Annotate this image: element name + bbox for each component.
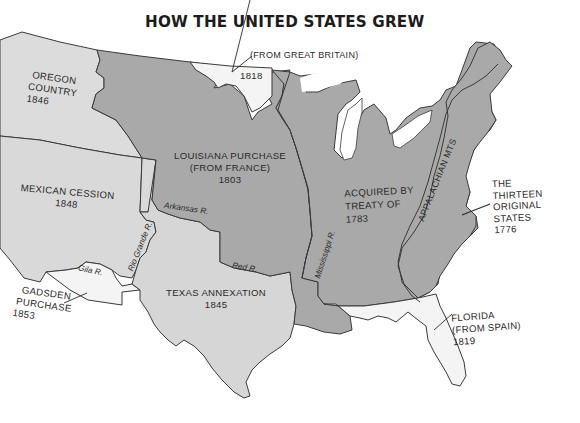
label-great-britain: (FROM GREAT BRITAIN) [250,49,359,61]
label-thirteen-states: THE THIRTEEN ORIGINAL STATES 1776 [492,176,545,236]
label-texas: TEXAS ANNEXATION 1845 [166,287,266,311]
label-louisiana: LOUISIANA PURCHASE (FROM FRANCE) 1803 [174,150,286,186]
callout-1818 [232,0,250,72]
label-florida: FLORIDA (FROM SPAIN) 1819 [451,308,522,349]
label-1818: 1818 [240,70,263,82]
label-treaty-1783: ACQUIRED BY TREATY OF 1783 [344,183,415,226]
region-florida [324,294,466,386]
label-oregon: OREGON COUNTRY 1846 [26,69,80,112]
